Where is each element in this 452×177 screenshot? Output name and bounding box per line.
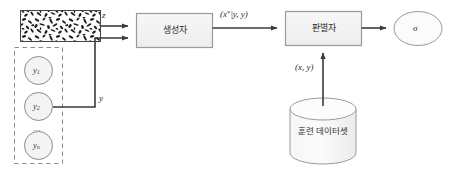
- diagram-vector-layer: [0, 0, 452, 177]
- noise-texture-block: [21, 11, 101, 42]
- edge-label-z: z: [102, 11, 106, 20]
- sigma-output-ellipse-shape: [394, 12, 442, 46]
- edge-label-real-pair: (x, y): [295, 63, 313, 72]
- label-circle-y1-text: y1: [33, 66, 40, 75]
- edge-label-y: y: [99, 94, 103, 103]
- label-group-ellipsis: ...: [33, 124, 41, 133]
- generator-label: 생성자: [136, 26, 214, 35]
- generated-pair-suffix: |y, y): [230, 9, 247, 19]
- generated-pair-prefix: (x: [220, 9, 227, 19]
- y1-subscript: 1: [37, 69, 40, 75]
- edge-labels-to-generator: [53, 38, 128, 107]
- label-circle-yn-text: yn: [33, 141, 40, 150]
- y2-subscript: 2: [37, 105, 40, 111]
- label-circle-y2-text: y2: [33, 102, 40, 111]
- sigma-label: σ: [413, 24, 417, 33]
- yn-subscript: n: [37, 144, 40, 150]
- training-dataset-label: 훈련 데이터셋: [288, 127, 358, 136]
- discriminator-label: 판별자: [285, 24, 363, 33]
- edge-label-generated-pair: (x*|y, y): [220, 10, 248, 19]
- diagram-canvas: 생성자 판별자 σ 훈련 데이터셋 y1 y2 yn ... z y (x*|y…: [0, 0, 452, 177]
